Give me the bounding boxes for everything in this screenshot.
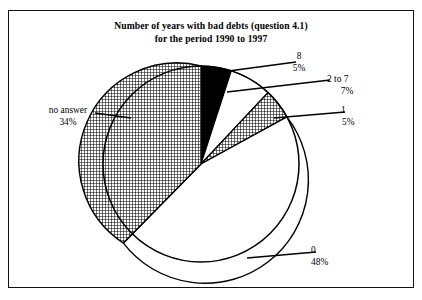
slice-label-0: 0 48% bbox=[311, 245, 341, 268]
slice-label-8-name: 8 bbox=[283, 51, 315, 63]
slice-label-no-answer-name: no answer bbox=[36, 105, 100, 117]
pie-chart-figure: Number of years with bad debts (question… bbox=[0, 0, 422, 300]
slice-label-8: 8 5% bbox=[283, 51, 315, 74]
pie-graphic bbox=[0, 0, 422, 300]
slice-label-2-to-7-percent: 7% bbox=[327, 86, 367, 98]
slice-label-no-answer-percent: 34% bbox=[36, 117, 100, 129]
slice-label-2-to-7-name: 2 to 7 bbox=[327, 74, 373, 86]
slice-label-1-name: 1 bbox=[341, 105, 371, 117]
slice-label-1: 1 5% bbox=[341, 105, 371, 128]
slice-label-2-to-7: 2 to 7 7% bbox=[327, 74, 373, 97]
slice-label-0-percent: 48% bbox=[311, 257, 341, 269]
slice-label-1-percent: 5% bbox=[341, 117, 371, 129]
slice-label-0-name: 0 bbox=[311, 245, 341, 257]
slice-label-no-answer: no answer 34% bbox=[36, 105, 100, 128]
slice-label-8-percent: 5% bbox=[283, 63, 315, 75]
